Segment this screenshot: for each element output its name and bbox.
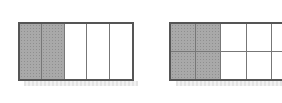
shaded-cell [20,24,42,79]
unshaded-cell [87,24,109,79]
shaded-cell [171,52,196,80]
unshaded-cell [247,52,272,80]
unshaded-cell [221,52,246,80]
unshaded-cell [272,52,282,80]
figure-right-shadow [176,81,282,86]
unshaded-cell [65,24,87,79]
unshaded-cell [110,24,132,79]
unshaded-cell [247,24,272,52]
fraction-rectangle-right [169,22,282,81]
unshaded-cell [221,24,246,52]
figure-left-shadow [24,81,138,86]
shaded-cell [42,24,64,79]
shaded-cell [171,24,196,52]
unshaded-cell [272,24,282,52]
shaded-cell [196,52,221,80]
fraction-rectangle-left [18,22,134,81]
shaded-cell [196,24,221,52]
